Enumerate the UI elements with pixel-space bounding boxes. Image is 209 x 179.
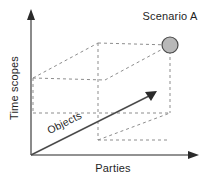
scenario-a-label: Scenario A: [142, 10, 198, 22]
cube-edge-bottom-diagonal: [98, 113, 170, 140]
cube-edge-top-back-right: [98, 43, 170, 45]
scenario-a-marker[interactable]: [162, 37, 178, 53]
cube-edge-top-back-left: [33, 43, 98, 78]
arrow-diagonal-icon: [145, 91, 157, 101]
time-scopes-axis-label: Time scopes: [8, 56, 20, 120]
cube-edge-top-front-left: [33, 78, 105, 80]
axes-group: [27, 9, 199, 159]
diagram-canvas: Scenario A Time scopes Parties Objects: [0, 0, 209, 179]
parties-axis-label: Parties: [95, 162, 131, 174]
scenario-space-diagram: Scenario A Time scopes Parties Objects: [0, 0, 209, 179]
arrow-right-icon: [188, 151, 199, 159]
arrow-up-icon: [27, 9, 35, 20]
cube-edge-top-front-right: [105, 45, 170, 80]
